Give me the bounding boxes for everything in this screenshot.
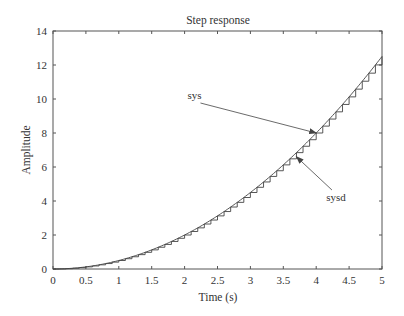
sysd-stairs (53, 57, 382, 270)
y-tick-label: 12 (36, 59, 47, 71)
x-tick-label: 2.5 (211, 274, 225, 286)
x-tick-label: 2 (182, 274, 188, 286)
x-tick-label: 4 (313, 274, 319, 286)
y-tick-label: 0 (42, 263, 48, 275)
x-tick-label: 3.5 (276, 274, 290, 286)
y-tick-label: 2 (42, 229, 48, 241)
x-tick-label: 0 (50, 274, 56, 286)
x-tick-label: 4.5 (342, 274, 356, 286)
y-tick-label: 10 (36, 93, 48, 105)
plot-canvas: Step response Time (s) Amplitude 00.511.… (0, 0, 404, 316)
x-tick-label: 3 (248, 274, 254, 286)
annotations: syssysd (187, 89, 346, 203)
y-tick-label: 6 (42, 161, 48, 173)
x-tick-label: 5 (379, 274, 385, 286)
step-response-chart: Step response Time (s) Amplitude 00.511.… (0, 0, 404, 316)
sys-curve (53, 57, 382, 270)
y-axis-label: Amplitude (20, 125, 33, 174)
annotation-arrow-sysd (296, 157, 331, 190)
plot-frame (53, 31, 382, 269)
x-tick-label: 0.5 (79, 274, 93, 286)
annotation-label-sysd: sysd (326, 191, 346, 203)
annotation-arrow-sys (200, 103, 316, 133)
y-tick-label: 14 (36, 25, 48, 37)
y-tick-label: 8 (42, 127, 48, 139)
y-tick-label: 4 (42, 195, 48, 207)
x-axis-label: Time (s) (199, 291, 238, 304)
data-series (53, 57, 382, 270)
axes: 00.511.522.533.544.5502468101214 (36, 25, 385, 286)
chart-title: Step response (186, 14, 250, 27)
x-tick-label: 1.5 (145, 274, 159, 286)
annotation-label-sys: sys (187, 89, 201, 101)
x-tick-label: 1 (116, 274, 122, 286)
